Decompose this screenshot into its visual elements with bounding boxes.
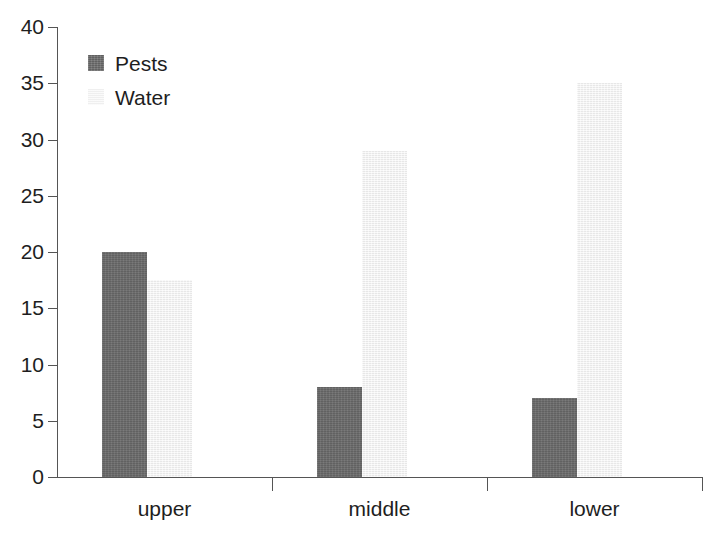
- bar-middle-pests: [317, 387, 362, 477]
- legend-swatch-icon: [88, 89, 104, 105]
- bar-chart: 0510152025303540 uppermiddlelower PestsW…: [0, 0, 720, 543]
- y-tick-mark: [48, 252, 57, 253]
- y-tick-mark: [48, 27, 57, 28]
- y-tick-label: 10: [0, 354, 44, 375]
- y-tick-label: 5: [0, 410, 44, 431]
- y-tick-label: 20: [0, 241, 44, 262]
- y-tick-mark: [48, 140, 57, 141]
- category-label-middle: middle: [272, 497, 487, 521]
- y-tick-label: 30: [0, 129, 44, 150]
- legend-item-pests: Pests: [88, 46, 170, 80]
- y-tick-mark: [48, 477, 57, 478]
- y-tick-label: 35: [0, 72, 44, 93]
- y-tick-mark: [48, 365, 57, 366]
- bar-lower-water: [577, 83, 622, 477]
- y-tick-mark: [48, 83, 57, 84]
- x-axis-line: [57, 477, 702, 478]
- y-tick-mark: [48, 421, 57, 422]
- y-tick-mark: [48, 196, 57, 197]
- x-tick-mark: [702, 477, 703, 491]
- y-tick-label: 40: [0, 16, 44, 37]
- legend: PestsWater: [88, 46, 170, 114]
- bar-middle-water: [362, 151, 407, 477]
- y-tick-label: 15: [0, 297, 44, 318]
- legend-item-water: Water: [88, 80, 170, 114]
- y-tick-mark: [48, 308, 57, 309]
- x-tick-mark: [487, 477, 488, 491]
- legend-label: Water: [115, 87, 170, 108]
- y-tick-label: 25: [0, 185, 44, 206]
- legend-label: Pests: [115, 53, 168, 74]
- category-label-upper: upper: [57, 497, 272, 521]
- bar-lower-pests: [532, 398, 577, 477]
- y-axis-line: [57, 27, 58, 478]
- bar-upper-water: [147, 280, 192, 477]
- bar-upper-pests: [102, 252, 147, 477]
- x-tick-mark: [272, 477, 273, 491]
- category-label-lower: lower: [487, 497, 702, 521]
- y-tick-label: 0: [0, 466, 44, 487]
- legend-swatch-icon: [88, 55, 104, 71]
